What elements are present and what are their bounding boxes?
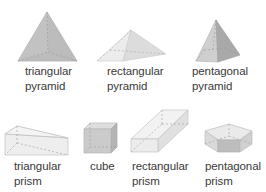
cube-label: cube <box>90 159 115 174</box>
pentagonal-prism-label: pentagonal prism <box>205 159 261 188</box>
pentagonal-pyramid-icon <box>196 20 240 62</box>
label-line-2: pyramid <box>25 79 72 94</box>
label-line-1: triangular <box>25 64 72 79</box>
pentagonal-pyramid-label: pentagonal pyramid <box>192 64 248 93</box>
label-line-1: pentagonal <box>192 64 248 79</box>
label-line-1: cube <box>90 159 115 174</box>
rectangular-prism-label: rectangular prism <box>132 159 188 188</box>
triangular-prism-icon <box>5 126 68 155</box>
solids-figure: triangular pyramid rectangular pyramid p… <box>0 0 266 192</box>
label-line-2: pyramid <box>192 79 248 94</box>
triangular-prism-label: triangular prism <box>14 159 61 188</box>
cube-icon <box>84 123 117 153</box>
label-line-1: rectangular <box>107 64 163 79</box>
triangular-pyramid-icon <box>18 12 77 61</box>
label-line-2: prism <box>14 174 61 189</box>
rectangular-prism-icon <box>131 110 188 152</box>
pentagonal-prism-icon <box>205 124 252 152</box>
label-line-1: pentagonal <box>205 159 261 174</box>
label-line-2: prism <box>132 174 188 189</box>
rectangular-pyramid-icon <box>97 30 166 61</box>
rectangular-pyramid-label: rectangular pyramid <box>107 64 163 93</box>
label-line-1: triangular <box>14 159 61 174</box>
label-line-2: pyramid <box>107 79 163 94</box>
label-line-1: rectangular <box>132 159 188 174</box>
label-line-2: prism <box>205 174 261 189</box>
triangular-pyramid-label: triangular pyramid <box>25 64 72 93</box>
